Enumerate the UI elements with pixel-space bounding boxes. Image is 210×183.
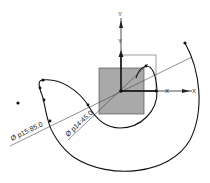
dimension-label-p14[interactable]: Ø p14:45.0 — [64, 109, 95, 139]
origin-point[interactable] — [119, 89, 123, 93]
vertex-point[interactable] — [39, 87, 42, 90]
y-axis-arrow-icon — [119, 20, 123, 28]
x-axis-inner-label: X — [165, 88, 169, 94]
isolated-point[interactable] — [16, 101, 19, 104]
vertex-point[interactable] — [49, 120, 52, 123]
y-axis-label: Y — [118, 11, 122, 17]
y-axis-inner-label: Y — [118, 38, 122, 44]
x-axis-arrow-icon — [182, 89, 190, 93]
vertex-point[interactable] — [145, 65, 148, 68]
vertex-point[interactable] — [183, 41, 186, 44]
vertex-point[interactable] — [43, 99, 46, 102]
sketch-canvas[interactable]: Y Y X X Ø p15:85.0 Ø p14:45.0 — [0, 0, 210, 183]
vertex-point[interactable] — [41, 78, 44, 81]
x-axis-label: X — [192, 88, 196, 94]
vertex-point[interactable] — [87, 104, 90, 107]
